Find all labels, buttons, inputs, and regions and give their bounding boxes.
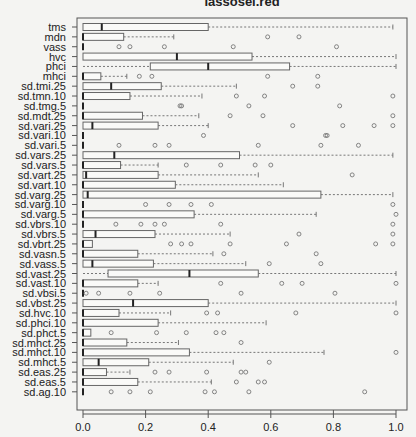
outlier-point xyxy=(269,163,273,167)
y-axis-labels: tmsmdnvasshvcphcimhcisd.tmi.25sd.tmn.10s… xyxy=(12,21,66,398)
outlier-point xyxy=(162,222,166,226)
outlier-point xyxy=(391,202,395,206)
iqr-box xyxy=(83,53,252,60)
iqr-box xyxy=(83,309,119,316)
outlier-point xyxy=(263,94,267,98)
outlier-point xyxy=(356,143,360,147)
iqr-box xyxy=(83,211,194,218)
x-tick-label: 0.2 xyxy=(138,421,153,433)
outlier-point xyxy=(391,232,395,236)
box-phci xyxy=(83,63,396,70)
outlier-point xyxy=(261,114,265,118)
outlier-point xyxy=(184,163,188,167)
outlier-point xyxy=(114,222,118,226)
outlier-point xyxy=(297,35,301,39)
box-hvc xyxy=(83,53,396,60)
box-sd.tmi.25 xyxy=(83,83,320,90)
outlier-point xyxy=(109,390,113,394)
outlier-point xyxy=(109,331,113,335)
outlier-point xyxy=(158,291,162,295)
iqr-box xyxy=(83,181,175,188)
outlier-point xyxy=(150,74,154,78)
outlier-point xyxy=(167,202,171,206)
outlier-point xyxy=(372,124,376,128)
outlier-point xyxy=(394,281,398,285)
box-sd.vari.10 xyxy=(83,132,329,139)
outlier-point xyxy=(189,242,193,246)
chart-title: lassosel.red xyxy=(204,0,279,9)
box-sd.vars.25 xyxy=(83,152,393,159)
box-sd.phci.10 xyxy=(83,319,266,326)
box-sd.vari.25 xyxy=(83,122,395,129)
iqr-box xyxy=(83,319,158,326)
outlier-point xyxy=(189,202,193,206)
outlier-point xyxy=(316,74,320,78)
outlier-point xyxy=(263,380,267,384)
outlier-point xyxy=(128,291,132,295)
outlier-point xyxy=(284,242,288,246)
iqr-box xyxy=(83,162,121,169)
outlier-point xyxy=(341,124,345,128)
outlier-point xyxy=(363,390,367,394)
outlier-point xyxy=(374,242,378,246)
outlier-point xyxy=(205,370,209,374)
x-axis: 0.00.20.40.60.81.0 xyxy=(75,410,403,433)
outlier-point xyxy=(391,242,395,246)
outlier-point xyxy=(294,311,298,315)
outlier-point xyxy=(153,143,157,147)
category-label: sd.ag.10 xyxy=(24,386,66,398)
outlier-point xyxy=(239,291,243,295)
outlier-point xyxy=(234,380,238,384)
outlier-point xyxy=(128,45,132,49)
outlier-point xyxy=(256,380,260,384)
outlier-point xyxy=(394,350,398,354)
iqr-box xyxy=(83,83,161,90)
iqr-box xyxy=(83,33,124,40)
outlier-point xyxy=(97,291,101,295)
box-tms xyxy=(83,24,393,31)
outlier-point xyxy=(391,114,395,118)
iqr-box xyxy=(108,270,258,277)
iqr-box xyxy=(83,122,158,129)
outlier-point xyxy=(297,232,301,236)
y-axis-ticks xyxy=(72,27,77,392)
iqr-box xyxy=(83,93,130,100)
box-sd.tmg.5 xyxy=(83,102,342,109)
iqr-box xyxy=(83,359,149,366)
outlier-point xyxy=(222,252,226,256)
outlier-point xyxy=(319,143,323,147)
outlier-point xyxy=(222,331,226,335)
outlier-point xyxy=(253,163,257,167)
x-tick-label: 0.8 xyxy=(326,421,341,433)
iqr-box xyxy=(83,152,240,159)
box-sd.mhct.10 xyxy=(83,349,398,356)
outlier-point xyxy=(205,311,209,315)
outlier-point xyxy=(350,173,354,177)
outlier-point xyxy=(247,390,251,394)
box-sd.varg.25 xyxy=(83,191,393,198)
box-sd.vast.10 xyxy=(83,280,398,287)
outlier-point xyxy=(219,222,223,226)
outlier-point xyxy=(267,262,271,266)
box-sd.vari.5 xyxy=(83,142,360,149)
box-sd.vass.5 xyxy=(83,260,323,267)
outlier-point xyxy=(169,242,173,246)
box-sd.vbst.25 xyxy=(83,300,396,307)
box-sd.vbrt.25 xyxy=(83,240,395,247)
outlier-point xyxy=(167,143,171,147)
outlier-point xyxy=(155,331,159,335)
iqr-box xyxy=(83,171,158,178)
outlier-point xyxy=(319,262,323,266)
box-mdn xyxy=(83,33,301,40)
box-sd.vasn.5 xyxy=(83,250,318,257)
box-sd.ag.10 xyxy=(83,388,367,395)
outlier-point xyxy=(394,212,398,216)
outlier-point xyxy=(314,252,318,256)
box-series xyxy=(83,24,398,396)
iqr-box xyxy=(83,260,153,267)
outlier-point xyxy=(266,74,270,78)
iqr-box xyxy=(83,191,321,198)
outlier-point xyxy=(394,311,398,315)
outlier-point xyxy=(316,84,320,88)
iqr-box xyxy=(150,63,289,70)
